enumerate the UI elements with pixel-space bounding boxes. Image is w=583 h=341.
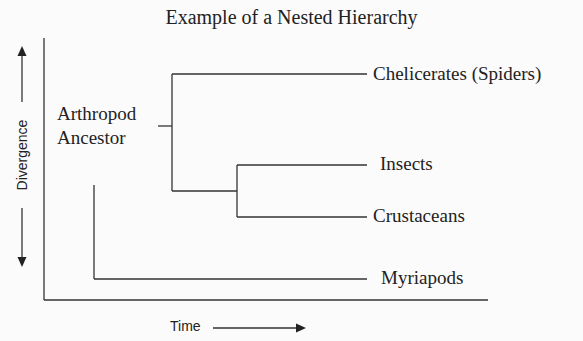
leaf-insects: Insects <box>380 153 433 175</box>
y-axis-label: Divergence <box>14 120 30 191</box>
x-axis-label: Time <box>170 318 201 334</box>
root-label-line2: Ancestor <box>57 127 126 149</box>
arrow-down-icon <box>18 257 27 267</box>
leaf-myriapods: Myriapods <box>381 267 463 289</box>
arrow-up-icon <box>18 46 27 56</box>
tree-lines <box>0 0 583 341</box>
leaf-chelicerates: Chelicerates (Spiders) <box>373 63 541 85</box>
leaf-crustaceans: Crustaceans <box>373 205 465 227</box>
arrow-right-icon <box>296 324 306 333</box>
root-label-line1: Arthropod <box>57 103 136 125</box>
